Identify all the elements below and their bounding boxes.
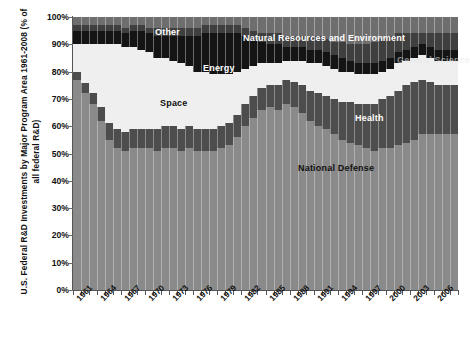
y-tick-mark: [68, 154, 73, 155]
series-label-national-defense: National Defense: [298, 163, 374, 173]
series-label-general-science: General Science: [397, 55, 470, 65]
bar-separator: [394, 17, 395, 290]
bar-separator: [137, 17, 138, 290]
bar-separator: [370, 17, 371, 290]
bar-separator: [378, 17, 379, 290]
bar-separator: [257, 17, 258, 290]
y-tick-label: 70%: [52, 94, 69, 104]
bar-separator: [233, 17, 234, 290]
y-tick-mark: [68, 208, 73, 209]
series-label-space: Space: [160, 98, 188, 108]
bar-separator: [241, 17, 242, 290]
bar-separator: [121, 17, 122, 290]
bar-segment: [450, 33, 458, 49]
bar-separator: [314, 17, 315, 290]
bar-separator: [225, 17, 226, 290]
bar-separator: [97, 17, 98, 290]
bar-separator: [217, 17, 218, 290]
series-label-energy: Energy: [203, 63, 235, 73]
bar-separator: [274, 17, 275, 290]
y-axis-title: U.S. Federal R&D Investments by Major Pr…: [19, 7, 42, 297]
bar-separator: [201, 17, 202, 290]
bar-separator: [113, 17, 114, 290]
y-tick-label: 80%: [52, 67, 69, 77]
bar-separator: [81, 17, 82, 290]
bar-separator: [249, 17, 250, 290]
y-tick-mark: [68, 99, 73, 100]
y-tick-label: 10%: [52, 258, 69, 268]
bar-separator: [161, 17, 162, 290]
y-tick-mark: [68, 72, 73, 73]
bar-separator: [129, 17, 130, 290]
y-tick-mark: [68, 263, 73, 264]
y-tick-mark: [68, 235, 73, 236]
bar-separator: [209, 17, 210, 290]
x-axis-tick-labels: 1961196419671970197319761979198219851988…: [0, 292, 465, 332]
y-tick-label: 20%: [52, 230, 69, 240]
bar-separator: [105, 17, 106, 290]
bar-separator: [266, 17, 267, 290]
bar-separator: [185, 17, 186, 290]
y-tick-label: 90%: [52, 39, 69, 49]
y-tick-mark: [68, 126, 73, 127]
bar-separator: [193, 17, 194, 290]
bar-separator: [338, 17, 339, 290]
bar-separator: [145, 17, 146, 290]
y-tick-mark: [68, 17, 73, 18]
y-tick-label: 30%: [52, 203, 69, 213]
series-label-other: Other: [155, 27, 180, 37]
y-tick-label: 60%: [52, 121, 69, 131]
bar-separator: [346, 17, 347, 290]
series-label-health: Health: [355, 113, 384, 123]
y-tick-mark: [68, 44, 73, 45]
bar-separator: [89, 17, 90, 290]
bar-separator: [386, 17, 387, 290]
bar-separator: [306, 17, 307, 290]
y-tick-label: 40%: [52, 176, 69, 186]
bar-separator: [282, 17, 283, 290]
bar-segment: [450, 17, 458, 33]
bar-separator: [177, 17, 178, 290]
bar-separator: [322, 17, 323, 290]
y-tick-label: 100%: [47, 12, 69, 22]
bar-separator: [354, 17, 355, 290]
bar-separator: [169, 17, 170, 290]
series-label-natural-resources: Natural Resources and Environment: [243, 33, 405, 43]
bar-separator: [330, 17, 331, 290]
bar-segment: [450, 134, 458, 290]
bar-segment: [450, 85, 458, 134]
bar-separator: [362, 17, 363, 290]
y-tick-label: 50%: [52, 149, 69, 159]
bar-separator: [298, 17, 299, 290]
bar-separator: [153, 17, 154, 290]
y-tick-mark: [68, 181, 73, 182]
y-tick-mark: [68, 290, 73, 291]
bar-separator: [290, 17, 291, 290]
